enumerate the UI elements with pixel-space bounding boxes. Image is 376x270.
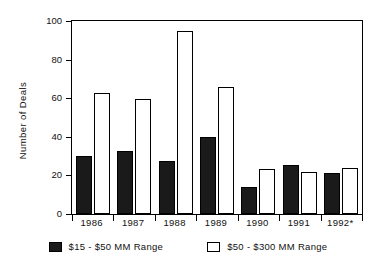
bar-1986-series2	[94, 93, 110, 214]
legend-label-light: $50 - $300 MM Range	[227, 241, 327, 252]
chart-legend: $15 - $50 MM Range $50 - $300 MM Range	[0, 241, 376, 252]
y-tick-40: 40	[66, 137, 72, 138]
bar-1991-series2	[301, 172, 317, 214]
bar-1987-series2	[135, 99, 151, 214]
bar-1986-series1	[76, 156, 92, 214]
bar-1987-series1	[117, 151, 133, 214]
x-axis-label-1992star: 1992*	[320, 217, 361, 228]
bar-chart: Number of Deals 020406080100 19861987198…	[0, 0, 376, 270]
y-tick-label-20: 20	[36, 169, 62, 180]
bar-1990-series1	[241, 187, 257, 214]
y-tick-label-40: 40	[36, 131, 62, 142]
y-tick-100: 100	[66, 21, 72, 22]
x-axis-label-1991: 1991	[278, 217, 319, 228]
y-axis-title: Number of Deals	[17, 61, 28, 181]
y-tick-label-60: 60	[36, 92, 62, 103]
open-white-swatch-icon	[207, 242, 220, 252]
legend-entry-dark: $15 - $50 MM Range	[49, 241, 164, 252]
y-tick-label-80: 80	[36, 54, 62, 65]
x-axis-label-1986: 1986	[71, 217, 112, 228]
y-tick-80: 80	[66, 60, 72, 61]
x-tick-7	[362, 214, 363, 221]
x-axis-label-1989: 1989	[195, 217, 236, 228]
plot-area: 020406080100	[71, 20, 363, 215]
y-tick-20: 20	[66, 175, 72, 176]
bar-1990-series2	[259, 169, 275, 214]
y-tick-label-100: 100	[36, 15, 62, 26]
x-axis-label-1987: 1987	[112, 217, 153, 228]
y-tick-label-0: 0	[36, 208, 62, 219]
bar-1989-series1	[200, 137, 216, 214]
y-tick-60: 60	[66, 98, 72, 99]
x-axis-label-1988: 1988	[154, 217, 195, 228]
legend-label-dark: $15 - $50 MM Range	[69, 241, 164, 252]
bar-1992star-series2	[342, 168, 358, 214]
filled-black-swatch-icon	[49, 242, 62, 252]
bar-1988-series2	[177, 31, 193, 214]
bar-1991-series1	[283, 165, 299, 214]
bar-1992star-series1	[324, 173, 340, 214]
bar-1989-series2	[218, 87, 234, 214]
x-axis-label-1990: 1990	[237, 217, 278, 228]
legend-entry-light: $50 - $300 MM Range	[207, 241, 327, 252]
bar-1988-series1	[159, 161, 175, 214]
